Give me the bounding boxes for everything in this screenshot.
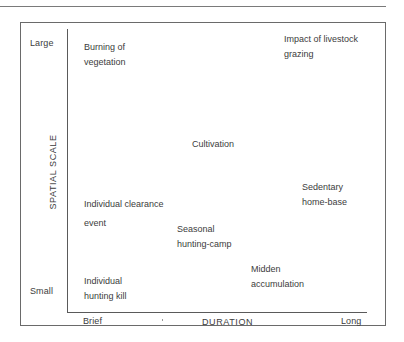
item-line: Individual clearance xyxy=(84,195,164,214)
item-line: Burning of xyxy=(84,40,126,55)
item-seasonal-hunting-camp: Seasonal hunting-camp xyxy=(177,222,232,252)
diagram-frame xyxy=(20,22,386,326)
stray-mark xyxy=(162,319,163,321)
item-line: Sedentary xyxy=(302,180,347,195)
x-axis-line xyxy=(67,312,367,313)
y-axis-large-label: Large xyxy=(30,36,54,51)
y-axis-small-label: Small xyxy=(30,284,53,299)
item-individual-clearance-event: Individual clearance event xyxy=(84,195,164,233)
x-axis-long-label: Long xyxy=(341,314,361,329)
item-line: Cultivation xyxy=(192,137,234,152)
item-line: grazing xyxy=(284,47,358,62)
item-line: Seasonal xyxy=(177,222,232,237)
item-line: hunting-camp xyxy=(177,237,232,252)
top-rule xyxy=(0,6,386,7)
item-individual-hunting-kill: Individual hunting kill xyxy=(84,274,127,304)
item-line: Midden xyxy=(251,262,304,277)
item-burning-of-vegetation: Burning of vegetation xyxy=(84,40,126,70)
y-axis-title: SPATIAL SCALE xyxy=(48,134,58,209)
item-midden-accumulation: Midden accumulation xyxy=(251,262,304,292)
item-line: hunting kill xyxy=(84,289,127,304)
item-line: Individual xyxy=(84,274,127,289)
item-line: vegetation xyxy=(84,55,126,70)
item-line: event xyxy=(84,214,164,233)
item-impact-of-livestock-grazing: Impact of livestock grazing xyxy=(284,32,358,62)
item-line: accumulation xyxy=(251,277,304,292)
item-cultivation: Cultivation xyxy=(192,137,234,152)
y-axis-line xyxy=(67,29,68,312)
x-axis-brief-label: Brief xyxy=(83,314,102,329)
x-axis-title: DURATION xyxy=(202,317,253,327)
item-sedentary-home-base: Sedentary home-base xyxy=(302,180,347,210)
item-line: Impact of livestock xyxy=(284,32,358,47)
item-line: home-base xyxy=(302,195,347,210)
